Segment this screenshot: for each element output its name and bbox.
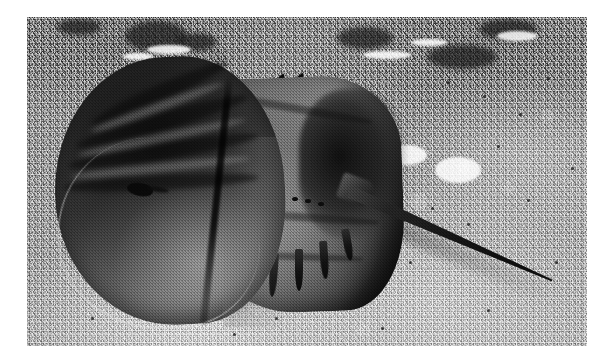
spine-socket [318, 202, 324, 206]
photograph-plate [27, 17, 587, 346]
horseshoe-crab [27, 17, 587, 346]
photo-frame [0, 0, 613, 363]
marginal-spine-lower [295, 249, 303, 291]
spine-socket [305, 199, 311, 203]
